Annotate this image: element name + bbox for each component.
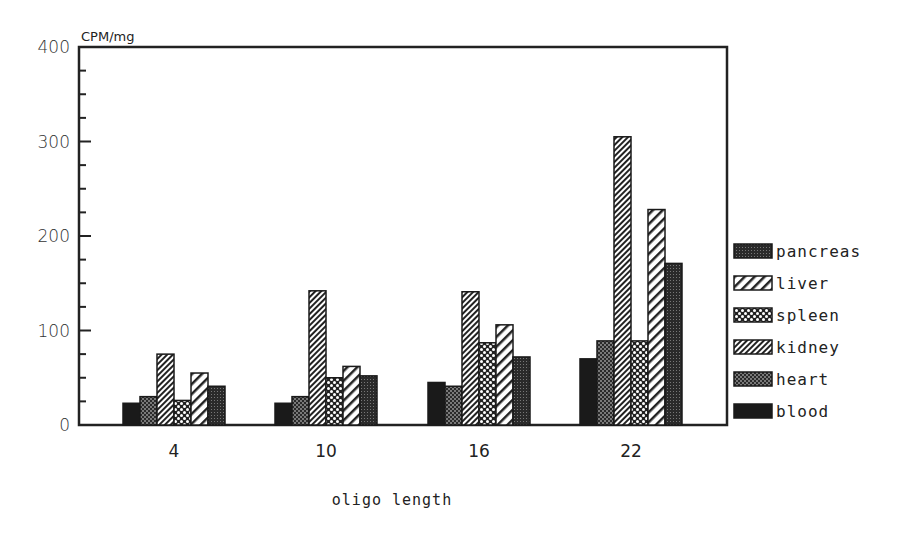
bar-heart-22 bbox=[597, 341, 614, 425]
bars bbox=[123, 137, 682, 425]
bar-heart-4 bbox=[140, 397, 157, 425]
x-tick-label: 10 bbox=[315, 441, 337, 461]
y-axis: 0100200300400 bbox=[38, 37, 91, 435]
bar-blood-16 bbox=[428, 382, 445, 425]
legend-swatch bbox=[734, 276, 772, 290]
bar-liver-4 bbox=[191, 373, 208, 425]
legend-swatch bbox=[734, 340, 772, 354]
bar-blood-10 bbox=[275, 403, 292, 425]
legend-item-pancreas: pancreas bbox=[734, 242, 861, 261]
bar-group-22 bbox=[580, 137, 682, 425]
y-tick-label: 200 bbox=[38, 226, 70, 246]
bar-group-4 bbox=[123, 354, 225, 425]
legend-item-heart: heart bbox=[734, 370, 829, 389]
bar-liver-22 bbox=[648, 210, 665, 425]
y-unit-text: CPM/mg bbox=[81, 29, 134, 44]
bar-chart: CPM/mg 0100200300400 4101622oligo length… bbox=[0, 0, 912, 533]
legend-item-spleen: spleen bbox=[734, 306, 840, 325]
bar-blood-22 bbox=[580, 359, 597, 425]
bar-spleen-10 bbox=[326, 378, 343, 425]
legend-label: kidney bbox=[776, 338, 840, 357]
bar-blood-4 bbox=[123, 403, 140, 425]
bar-spleen-22 bbox=[631, 341, 648, 425]
legend-swatch bbox=[734, 308, 772, 322]
bar-liver-10 bbox=[343, 366, 360, 425]
y-tick-label: 300 bbox=[38, 132, 70, 152]
y-tick-label: 400 bbox=[38, 37, 70, 57]
bar-kidney-16 bbox=[462, 292, 479, 425]
legend-swatch bbox=[734, 244, 772, 258]
legend: pancreasliverspleenkidneyheartblood bbox=[734, 242, 861, 421]
bar-group-10 bbox=[275, 291, 377, 425]
bar-heart-10 bbox=[292, 397, 309, 425]
x-tick-label: 22 bbox=[620, 441, 642, 461]
legend-label: spleen bbox=[776, 306, 840, 325]
legend-label: liver bbox=[776, 274, 829, 293]
legend-item-kidney: kidney bbox=[734, 338, 840, 357]
x-tick-label: 4 bbox=[169, 441, 180, 461]
x-axis-title: oligo length bbox=[332, 491, 452, 509]
legend-label: blood bbox=[776, 402, 829, 421]
bar-kidney-22 bbox=[614, 137, 631, 425]
x-tick-label: 16 bbox=[468, 441, 490, 461]
bar-pancreas-16 bbox=[513, 357, 530, 425]
bar-liver-16 bbox=[496, 325, 513, 425]
bar-kidney-4 bbox=[157, 354, 174, 425]
x-axis: 4101622oligo length bbox=[169, 441, 642, 509]
bar-pancreas-4 bbox=[208, 386, 225, 425]
legend-item-liver: liver bbox=[734, 274, 829, 293]
legend-swatch bbox=[734, 372, 772, 386]
y-tick-label: 0 bbox=[59, 415, 70, 435]
bar-spleen-16 bbox=[479, 343, 496, 425]
legend-swatch bbox=[734, 404, 772, 418]
bar-spleen-4 bbox=[174, 400, 191, 425]
y-tick-label: 100 bbox=[38, 321, 70, 341]
bar-group-16 bbox=[428, 292, 530, 425]
legend-item-blood: blood bbox=[734, 402, 829, 421]
bar-pancreas-22 bbox=[665, 263, 682, 425]
y-axis-unit-label: CPM/mg bbox=[81, 29, 134, 44]
legend-label: pancreas bbox=[776, 242, 861, 261]
bar-kidney-10 bbox=[309, 291, 326, 425]
bar-heart-16 bbox=[445, 386, 462, 425]
legend-label: heart bbox=[776, 370, 829, 389]
bar-pancreas-10 bbox=[360, 376, 377, 425]
